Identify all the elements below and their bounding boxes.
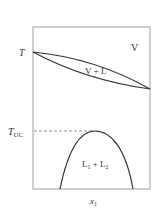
liquid-liquid-region-label: L1 + L2 [82,159,109,170]
x-axis-label: x1 [89,196,97,207]
phase-diagram: T TUC V V + L L1 + L2 x1 [0,0,160,211]
t-axis-label: T [19,47,26,58]
vapor-liquid-region-label: V + L [85,66,106,76]
vapor-region-label: V [131,42,139,53]
tuc-label: TUC [8,126,24,139]
